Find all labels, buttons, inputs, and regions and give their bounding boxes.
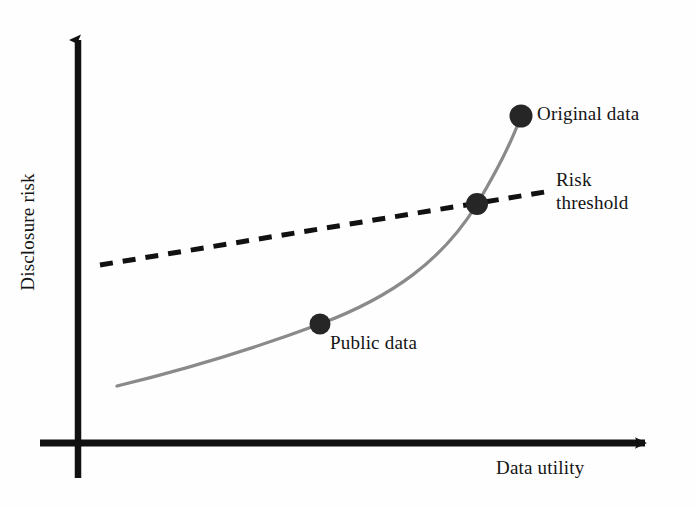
public-data-marker xyxy=(310,314,331,335)
public-data-label: Public data xyxy=(330,331,417,354)
risk-threshold-label: Risk threshold xyxy=(556,168,629,214)
plot-canvas xyxy=(0,0,697,507)
risk-threshold-label-line2: threshold xyxy=(556,191,629,214)
original-data-label: Original data xyxy=(537,102,639,125)
risk-threshold-label-line1: Risk xyxy=(556,168,629,191)
disclosure-risk-utility-figure: Disclosure risk Data utility Original da… xyxy=(0,0,697,507)
original-data-marker xyxy=(510,105,533,128)
x-axis-title: Data utility xyxy=(496,457,584,479)
risk-threshold-crossing-marker xyxy=(466,193,488,215)
y-axis-title: Disclosure risk xyxy=(17,173,39,291)
